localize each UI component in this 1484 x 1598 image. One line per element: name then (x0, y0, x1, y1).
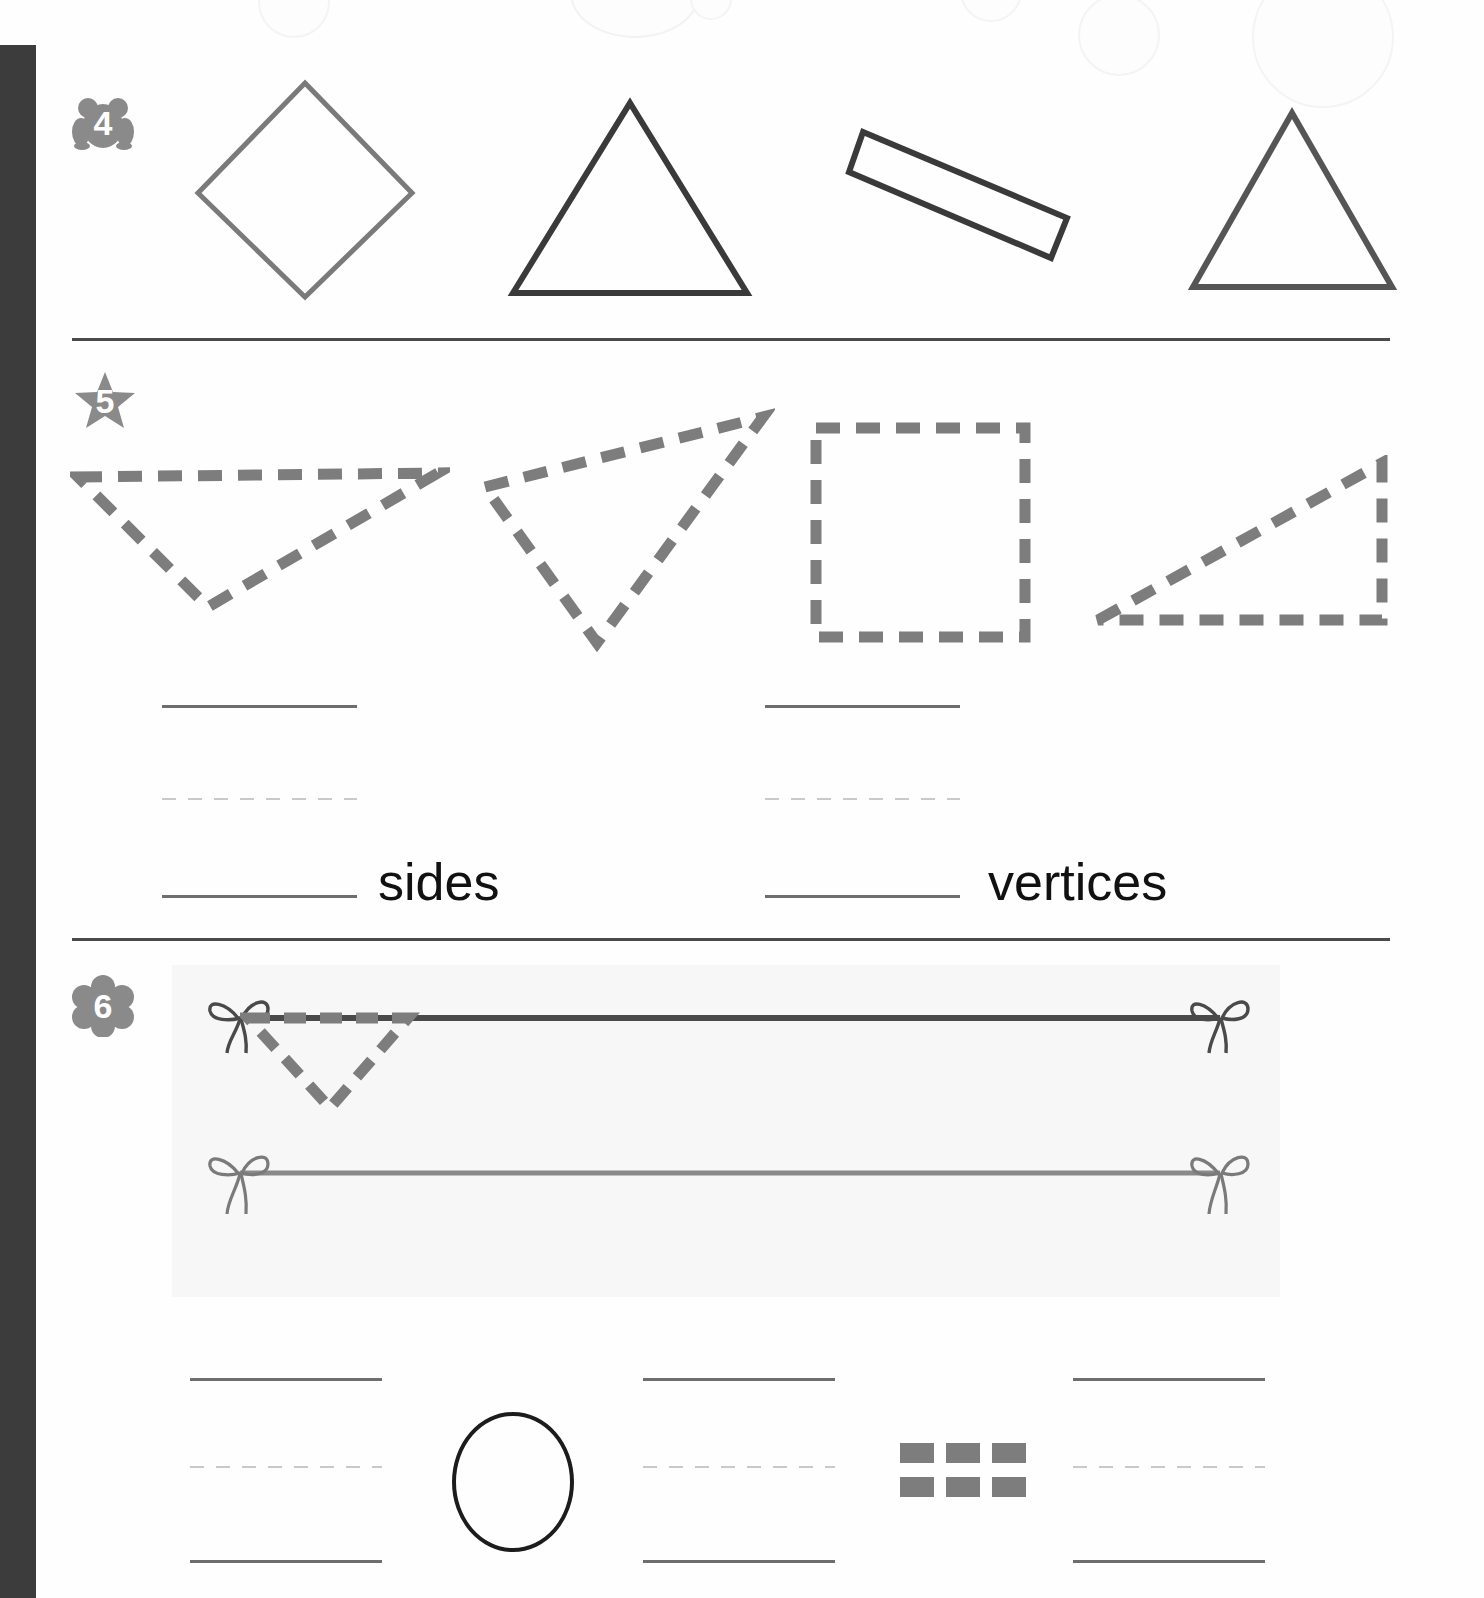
dash-mark (900, 1477, 934, 1497)
shape-diamond (190, 75, 420, 305)
problem-badge-5: 5 (74, 370, 136, 432)
ghost-circle-icon (258, 0, 330, 38)
handwriting-base-line (643, 1560, 835, 1563)
handwriting-top-line (162, 705, 357, 708)
problem-badge-4: 4 (72, 92, 134, 154)
shape-dashed-triangle-small (240, 1010, 420, 1120)
handwriting-top-line (765, 705, 960, 708)
handwriting-top-line (1073, 1378, 1265, 1381)
circle-icon (452, 1412, 574, 1552)
problem-number: 5 (96, 384, 115, 418)
dash-mark (992, 1443, 1026, 1463)
ghost-circle-icon (690, 0, 732, 20)
shape-triangle (505, 95, 755, 305)
section-divider (72, 338, 1390, 341)
answer-group-1[interactable] (190, 1378, 382, 1563)
problem-number: 4 (94, 106, 113, 140)
shape-dashed-triangle-narrow (475, 405, 775, 655)
shape-triangle (1185, 105, 1400, 300)
dash-mark (992, 1477, 1026, 1497)
ghost-circle-icon (1078, 0, 1160, 76)
page-binding-strip (0, 45, 36, 1598)
handwriting-base-line (190, 1560, 382, 1563)
handwriting-mid-line (190, 1466, 382, 1468)
ghost-circle-icon (1252, 0, 1394, 108)
shape-dashed-right-triangle (1090, 455, 1395, 630)
section-divider (72, 938, 1390, 941)
answer-group-vertices[interactable] (765, 705, 960, 900)
label-sides: sides (378, 852, 499, 912)
handwriting-base-line (765, 895, 960, 898)
dash-mark (900, 1443, 934, 1463)
answer-group-sides[interactable] (162, 705, 357, 900)
handwriting-mid-line (1073, 1466, 1265, 1468)
worksheet-page: { "page": { "background_color": "#fefefe… (0, 0, 1484, 1598)
shape-rectangle-tilted (845, 110, 1115, 270)
handwriting-mid-line (765, 798, 960, 800)
handwriting-mid-line (643, 1466, 835, 1468)
handwriting-base-line (162, 895, 357, 898)
answer-group-3[interactable] (1073, 1378, 1265, 1563)
ghost-circle-icon (570, 0, 700, 38)
problem-badge-6: 6 (72, 975, 134, 1037)
handwriting-mid-line (162, 798, 357, 800)
answer-group-2[interactable] (643, 1378, 835, 1563)
dash-mark (946, 1477, 980, 1497)
top-ghost-circles (0, 0, 1484, 58)
dash-grid-icon (900, 1443, 1026, 1497)
handwriting-top-line (190, 1378, 382, 1381)
handwriting-top-line (643, 1378, 835, 1381)
shape-dashed-triangle-wide (70, 455, 450, 620)
handwriting-base-line (1073, 1560, 1265, 1563)
label-vertices: vertices (988, 852, 1167, 912)
shape-dashed-square (808, 420, 1033, 645)
problem-number: 6 (94, 989, 113, 1023)
dash-mark (946, 1443, 980, 1463)
ghost-circle-icon (960, 0, 1022, 22)
ribbon-light (200, 1140, 1260, 1220)
